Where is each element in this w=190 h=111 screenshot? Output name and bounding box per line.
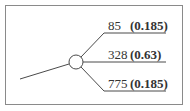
- chance-node: [69, 55, 83, 69]
- branch-prob-middle: (0.63): [130, 48, 161, 61]
- branch-value-top: 85: [108, 19, 121, 32]
- branch-value-middle: 328: [108, 48, 128, 61]
- tree-lines: [0, 0, 190, 111]
- branch-prob-bottom: (0.185): [130, 77, 168, 90]
- branch-value-bottom: 775: [108, 77, 128, 90]
- branch-prob-top: (0.185): [130, 19, 168, 32]
- incoming-edge: [20, 64, 69, 79]
